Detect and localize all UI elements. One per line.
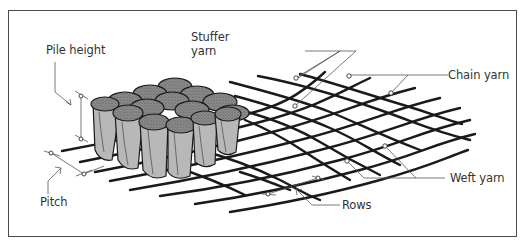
label-chain-yarn: Chain yarn: [448, 69, 509, 82]
label-stuffer-yarn-line2: yarn: [191, 45, 216, 58]
pile-tufts: [91, 78, 249, 178]
carpet-diagram: [0, 0, 526, 246]
label-rows: Rows: [342, 199, 372, 212]
label-pitch: Pitch: [40, 196, 68, 209]
label-pile-height: Pile height: [46, 44, 105, 57]
label-weft-yarn: Weft yarn: [450, 172, 505, 185]
label-stuffer-yarn-line1: Stuffer: [191, 31, 229, 44]
